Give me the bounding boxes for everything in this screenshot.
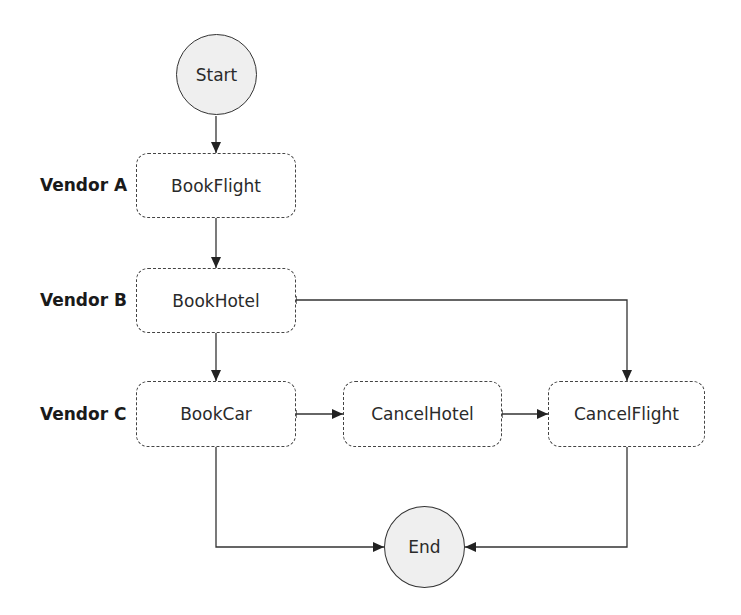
bookcar-label: BookCar <box>180 404 252 424</box>
edge-cancelflight-end <box>465 447 627 547</box>
start-label: Start <box>196 65 238 85</box>
bookflight-node[interactable]: BookFlight <box>136 153 296 218</box>
cancelflight-label: CancelFlight <box>574 404 679 424</box>
lane-label-vendor-b: Vendor B <box>40 290 127 310</box>
start-node[interactable]: Start <box>176 34 257 115</box>
bookhotel-node[interactable]: BookHotel <box>136 268 296 333</box>
bookhotel-label: BookHotel <box>172 291 259 311</box>
end-label: End <box>408 537 440 557</box>
cancelflight-node[interactable]: CancelFlight <box>548 381 705 447</box>
lane-label-vendor-a: Vendor A <box>40 175 127 195</box>
edge-bookcar-end <box>216 447 384 547</box>
cancelhotel-label: CancelHotel <box>371 404 474 424</box>
edge-bookhotel-cancelflight <box>296 300 627 381</box>
bookcar-node[interactable]: BookCar <box>136 381 296 447</box>
end-node[interactable]: End <box>384 506 465 588</box>
bookflight-label: BookFlight <box>171 176 261 196</box>
lane-label-vendor-c: Vendor C <box>40 404 127 424</box>
cancelhotel-node[interactable]: CancelHotel <box>343 381 502 447</box>
